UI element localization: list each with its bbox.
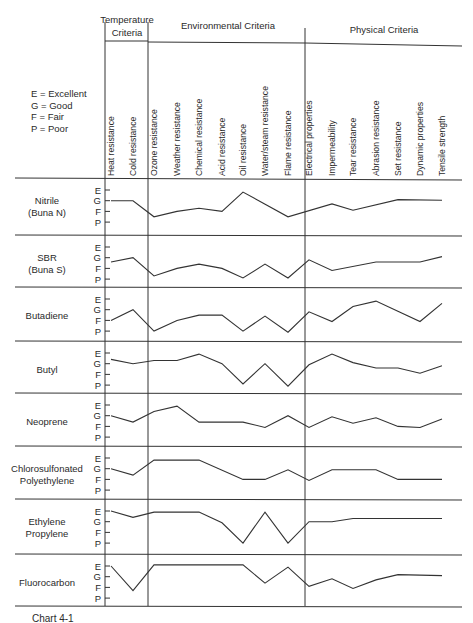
material-label: Nitrile	[35, 195, 59, 206]
column-label: Set resistance	[393, 121, 403, 176]
column-label: Heat resistance	[106, 116, 116, 176]
material-label: Propylene	[26, 528, 69, 539]
column-label: Flame resistance	[283, 110, 293, 176]
column-label: Tensile strength	[437, 116, 447, 176]
rating-tick-label: E	[95, 453, 101, 464]
rating-line	[111, 354, 442, 386]
rating-tick-label: F	[95, 474, 101, 485]
row-divider	[15, 235, 462, 236]
column-label: Oil resistance	[238, 124, 248, 176]
group-title: Criteria	[112, 27, 143, 38]
material-label: (Buna S)	[28, 264, 66, 275]
row-divider	[15, 178, 462, 180]
rating-tick-label: F	[95, 263, 101, 274]
rating-line	[111, 406, 442, 427]
row-divider	[15, 606, 462, 607]
group-title: Temperature	[100, 14, 153, 25]
row-divider	[15, 393, 462, 394]
rating-tick-label: P	[95, 593, 101, 604]
rating-line	[111, 301, 442, 332]
rating-tick-label: G	[94, 463, 101, 474]
column-label: Dynamic properties	[415, 102, 425, 176]
row-divider	[15, 341, 462, 342]
column-label: Cold resistance	[128, 117, 138, 176]
material-row: EGFPNeoprene	[15, 393, 462, 443]
row-divider	[15, 446, 462, 447]
material-row: EGFPSBR(Buna S)	[15, 235, 462, 285]
group-title: Environmental Criteria	[181, 20, 276, 31]
material-label: Chlorosulfonated	[11, 463, 83, 474]
group-underline	[148, 42, 305, 43]
column-label: Water/steam resistance	[260, 86, 270, 176]
figure-caption: Chart 4-1	[32, 613, 74, 623]
rating-tick-label: G	[94, 516, 101, 527]
material-label: Fluorocarbon	[19, 577, 75, 588]
material-label: SBR	[37, 252, 57, 263]
column-label: Chemical resistance	[194, 98, 204, 176]
group-underline	[305, 43, 462, 46]
chart-caption: Chart 4-1	[32, 613, 74, 623]
elastomer-property-chart: TemperatureCriteriaEnvironmental Criteri…	[0, 0, 473, 623]
rating-tick-label: E	[95, 506, 101, 517]
rating-tick-label: E	[95, 242, 101, 253]
rating-line	[111, 565, 442, 591]
material-row: EGFPNitrile(Buna N)	[15, 178, 462, 228]
material-row: EGFPEthylenePropylene	[15, 499, 462, 549]
rating-tick-label: P	[95, 538, 101, 549]
material-label: (Buna N)	[28, 207, 66, 218]
rating-line	[111, 257, 442, 278]
rating-tick-label: G	[94, 410, 101, 421]
material-row: EGFPFluorocarbon	[15, 554, 462, 604]
legend-entry: G = Good	[31, 100, 72, 111]
row-divider	[15, 499, 462, 500]
rating-tick-label: G	[94, 358, 101, 369]
chart-rows: EGFPNitrile(Buna N)EGFPSBR(Buna S)EGFPBu…	[11, 178, 462, 607]
material-label: Neoprene	[26, 416, 68, 427]
legend-entry: E = Excellent	[31, 88, 87, 99]
material-row: EGFPChlorosulfonatedPolyethylene	[11, 446, 462, 496]
column-label: Impermeability	[327, 119, 337, 176]
rating-tick-label: G	[94, 195, 101, 206]
rating-tick-label: P	[95, 326, 101, 337]
legend-entry: F = Fair	[31, 111, 64, 122]
rating-tick-label: P	[95, 274, 101, 285]
rating-line	[111, 192, 442, 217]
column-label: Electrical properties	[304, 101, 314, 176]
column-label: Weather resistance	[172, 102, 182, 176]
rating-tick-label: E	[95, 348, 101, 359]
rating-tick-label: F	[95, 582, 101, 593]
column-label: Tear resistance	[348, 118, 358, 176]
material-row: EGFPButyl	[15, 341, 462, 391]
column-label: Acid resistance	[217, 118, 227, 176]
column-label: Ozone resistance	[149, 109, 159, 176]
rating-tick-label: E	[95, 294, 101, 305]
legend-entry: P = Poor	[31, 123, 68, 134]
rating-tick-label: F	[95, 315, 101, 326]
material-label: Butyl	[36, 364, 57, 375]
rating-tick-label: E	[95, 400, 101, 411]
rating-tick-label: F	[95, 369, 101, 380]
rating-tick-label: G	[94, 252, 101, 263]
rating-tick-label: E	[95, 561, 101, 572]
row-divider	[15, 554, 462, 555]
rating-tick-label: P	[95, 432, 101, 443]
rating-tick-label: F	[95, 206, 101, 217]
rating-tick-label: E	[95, 185, 101, 196]
rating-line	[111, 511, 442, 543]
group-title: Physical Criteria	[350, 24, 419, 35]
rating-tick-label: F	[95, 527, 101, 538]
material-label: Polyethylene	[20, 475, 74, 486]
row-divider	[15, 287, 462, 288]
rating-tick-label: P	[95, 380, 101, 391]
rating-tick-label: P	[95, 217, 101, 228]
material-label: Butadiene	[26, 310, 69, 321]
rating-tick-label: F	[95, 421, 101, 432]
material-label: Ethylene	[29, 516, 66, 527]
rating-tick-label: G	[94, 571, 101, 582]
rating-line	[111, 460, 442, 480]
column-label: Abrasion resistance	[371, 100, 381, 176]
rating-tick-label: P	[95, 485, 101, 496]
rating-tick-label: G	[94, 304, 101, 315]
material-row: EGFPButadiene	[15, 287, 462, 337]
